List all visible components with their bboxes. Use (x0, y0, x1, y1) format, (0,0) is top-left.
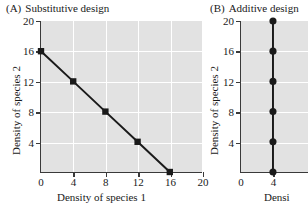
panel-a-xlabel-16: 16 (165, 177, 176, 188)
panel-b-ylabel-12: 12 (223, 76, 234, 87)
panel-additive-design: (B)Additive design Density of species 2 … (196, 0, 308, 209)
panel-a-ytick-12 (36, 82, 41, 83)
panel-b-ytick-4 (236, 143, 241, 144)
panel-a-series (41, 21, 202, 172)
panel-b-x-axis-title: Densi (264, 192, 290, 203)
panel-a-ylabel-16: 16 (23, 46, 34, 57)
panel-b-tag: (B) (210, 2, 225, 14)
gridline-y-16 (41, 51, 202, 52)
panel-a-plot-area: 20 16 12 8 4 0 4 8 12 16 20 (40, 21, 202, 173)
gridline-y-8 (241, 112, 308, 113)
panel-a-ytick-20 (36, 21, 41, 22)
gridline-x-8 (106, 21, 107, 172)
gridline-y-8 (41, 112, 202, 113)
panel-b-ytick-12 (236, 82, 241, 83)
panel-a-ytick-16 (36, 51, 41, 52)
panel-a-title: (A)Substitutive design (6, 2, 109, 15)
panel-b-ytick-8 (236, 112, 241, 113)
panel-a-ytick-4 (36, 143, 41, 144)
panel-b-ytick-16 (236, 51, 241, 52)
panel-a-title-text: Substitutive design (25, 2, 109, 14)
panel-a-ytick-8 (36, 112, 41, 113)
panel-a-tag: (A) (6, 2, 21, 14)
panel-a-xlabel-8: 8 (103, 177, 109, 188)
panel-b-y-axis-title: Density of species 2 (209, 66, 220, 155)
panel-a-ylabel-12: 12 (23, 76, 34, 87)
gridline-x-4 (73, 21, 74, 172)
panel-b-plot-area: 20 16 12 8 4 0 4 (240, 21, 308, 173)
gridline-y-4 (41, 143, 202, 144)
panel-b-series (241, 21, 308, 172)
panel-a-ylabel-4: 4 (29, 137, 35, 148)
panel-a-ylabel-8: 8 (29, 107, 35, 118)
gridline-x-12 (138, 21, 139, 172)
panel-b-title-text: Additive design (229, 2, 299, 14)
gridline-y-12 (41, 82, 202, 83)
panel-substitutive-design: (A)Substitutive design Density of specie… (0, 0, 206, 209)
panel-b-ytick-20 (236, 21, 241, 22)
gridline-x-16 (171, 21, 172, 172)
panel-b-ylabel-20: 20 (223, 16, 234, 27)
panel-a-y-axis-title: Density of species 2 (11, 66, 22, 155)
panel-b-xlabel-4: 4 (271, 177, 277, 188)
panel-a-xlabel-4: 4 (71, 177, 77, 188)
gridline-x-4 (273, 21, 274, 172)
panel-b-ylabel-8: 8 (229, 107, 235, 118)
panel-a-xlabel-0: 0 (38, 177, 44, 188)
panel-b-ylabel-4: 4 (229, 137, 235, 148)
panel-b-ylabel-16: 16 (223, 46, 234, 57)
gridline-y-4 (241, 143, 308, 144)
panel-a-ylabel-20: 20 (23, 16, 34, 27)
panel-b-title: (B)Additive design (210, 2, 299, 15)
panel-b-xlabel-0: 0 (238, 177, 244, 188)
gridline-y-16 (241, 51, 308, 52)
gridline-y-12 (241, 82, 308, 83)
panel-a-x-axis-title: Density of species 1 (57, 192, 146, 203)
panel-a-xlabel-12: 12 (133, 177, 144, 188)
